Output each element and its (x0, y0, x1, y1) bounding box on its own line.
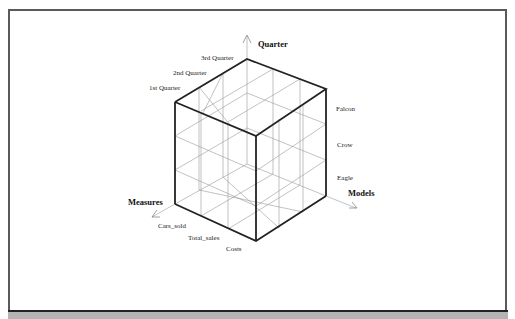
axis-title-measures: Measures (128, 197, 163, 207)
axis-title-quarter: Quarter (258, 39, 288, 49)
quarter-label-3: 3rd Quarter (201, 54, 234, 62)
axis-title-models: Models (348, 188, 375, 198)
model-label-crow: Crow (337, 141, 354, 149)
model-label-falcon: Falcon (336, 105, 356, 113)
quarter-label-1: 1st Quarter (149, 84, 181, 92)
measure-label-cars-sold: Cars_sold (158, 222, 187, 230)
cube-edges (175, 59, 326, 241)
data-cube-diagram: Quarter Models Measures 1st Quarter 2nd … (0, 0, 515, 319)
quarter-label-2: 2nd Quarter (173, 69, 207, 77)
model-label-eagle: Eagle (337, 174, 353, 182)
bottom-panel-bar (8, 310, 508, 319)
measure-label-total-sales: Total_sales (188, 234, 220, 242)
measure-label-costs: Costs (226, 245, 242, 253)
